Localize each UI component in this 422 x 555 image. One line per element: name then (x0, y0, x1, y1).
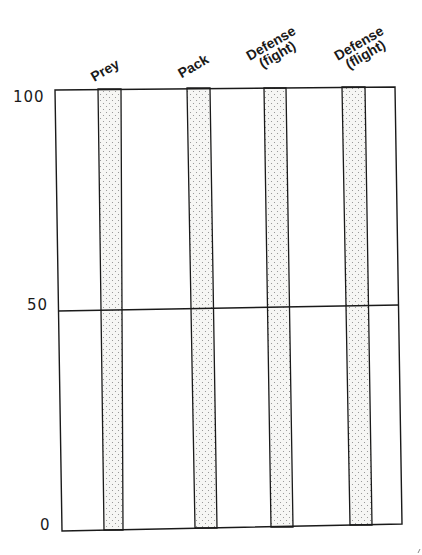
drive-chart (0, 0, 422, 555)
y-tick-100: 100 (13, 88, 45, 106)
scan-mark (418, 549, 420, 553)
y-tick-0: 0 (40, 516, 51, 534)
y-tick-50: 50 (27, 296, 48, 314)
